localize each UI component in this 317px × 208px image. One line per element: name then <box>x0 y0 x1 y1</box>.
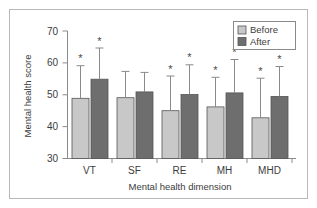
bar-after-MHD <box>271 96 288 158</box>
x-category-label-SF: SF <box>128 165 141 176</box>
bar-before-VT <box>72 98 89 158</box>
y-tick-label-60: 60 <box>47 57 59 68</box>
bar-after-MH <box>226 93 243 159</box>
legend-swatch-after <box>238 38 246 46</box>
significance-star-after-MHD: * <box>277 53 282 65</box>
y-tick-label-50: 50 <box>47 89 59 100</box>
bar-after-VT <box>91 79 108 158</box>
legend: Before After <box>234 22 296 50</box>
bar-before-MHD <box>252 118 269 159</box>
x-category-label-RE: RE <box>173 165 187 176</box>
x-category-label-VT: VT <box>83 165 96 176</box>
significance-star-before-MHD: * <box>258 65 263 77</box>
legend-label-before: Before <box>250 24 278 35</box>
legend-swatch-before <box>238 26 246 34</box>
bar-before-SF <box>117 98 134 159</box>
bar-after-RE <box>181 95 198 159</box>
x-category-label-MH: MH <box>217 165 233 176</box>
x-axis-title: Mental health dimension <box>129 181 232 192</box>
bar-after-SF <box>136 92 153 159</box>
y-axis-title: Mental health score <box>22 55 33 138</box>
x-category-label-MHD: MHD <box>258 165 281 176</box>
y-tick-label-30: 30 <box>47 153 59 164</box>
significance-star-after-RE: * <box>187 51 192 63</box>
significance-star-after-VT: * <box>97 35 102 47</box>
y-tick-label-40: 40 <box>47 121 59 132</box>
significance-star-before-RE: * <box>168 63 173 75</box>
legend-label-after: After <box>250 36 270 47</box>
significance-star-before-MH: * <box>213 64 218 76</box>
y-tick-label-70: 70 <box>47 26 59 37</box>
bar-before-MH <box>207 107 224 159</box>
significance-star-before-VT: * <box>78 52 83 64</box>
figure-container: 70 60 50 40 30 Mental health score * * V… <box>0 0 317 208</box>
bar-before-RE <box>162 111 179 159</box>
bar-chart: 70 60 50 40 30 Mental health score * * V… <box>0 0 317 208</box>
